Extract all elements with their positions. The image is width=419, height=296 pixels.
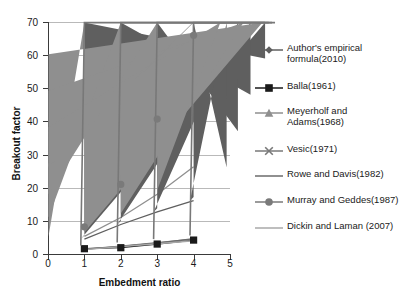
series-line [84,241,193,250]
legend-label-line: Vesic(1971) [287,143,337,154]
legend-label-line: Rowe and Davis(1982) [287,168,384,179]
legend-item-label: Balla(1961) [284,80,336,91]
y-axis-title: Breakout factor [11,84,22,204]
x-tick-label: 5 [227,258,233,269]
y-tick-label: 10 [14,215,38,226]
legend-marker-diamond-icon [254,43,284,57]
legend-label-line: Author's empirical [287,42,362,53]
legend-label-line: Dickin and Laman (2007) [287,220,393,231]
series-marker [154,116,161,123]
legend-item[interactable]: Vesic(1971) [254,143,337,158]
series-marker [117,244,124,251]
series-plot [48,22,231,255]
series-marker [81,245,88,252]
legend-item[interactable]: Balla(1961) [254,80,336,95]
x-tick-label: 0 [45,258,51,269]
legend-item-label: Murray and Geddes(1987) [284,194,398,205]
x-tick-label: 2 [118,258,124,269]
legend-item[interactable]: Meyerholf andAdams(1968) [254,105,347,127]
chart-figure: 010203040506070 012345 Embedment ratio B… [0,0,419,296]
legend-item-label: Meyerholf andAdams(1968) [284,105,347,127]
x-axis-title: Embedment ratio [48,277,231,288]
legend-label-line: Murray and Geddes(1987) [287,194,398,205]
legend-label-line: formula(2010) [287,53,362,64]
legend-item[interactable]: Dickin and Laman (2007) [254,220,393,235]
legend-item-label: Dickin and Laman (2007) [284,220,393,231]
legend-item-label: Rowe and Davis(1982) [284,168,384,179]
legend-label-line: Balla(1961) [287,80,336,91]
legend-item[interactable]: Murray and Geddes(1987) [254,194,398,209]
x-tick-label: 1 [82,258,88,269]
legend-marker-triangle-icon [254,106,284,120]
legend-item[interactable]: Rowe and Davis(1982) [254,168,384,183]
y-tick-label: 0 [14,249,38,260]
legend-marker-cross-icon [254,144,284,158]
y-tick-label: 60 [14,50,38,61]
legend-marker-circle-icon [254,195,284,209]
legend-marker-none-icon [254,221,284,235]
legend-item-label: Author's empiricalformula(2010) [284,42,362,64]
series-marker [190,236,197,243]
legend-label-line: Adams(1968) [287,116,347,127]
legend-item[interactable]: Author's empiricalformula(2010) [254,42,362,64]
legend-marker-none-icon [254,169,284,183]
series-marker [81,223,88,230]
legend-marker-square-icon [254,81,284,95]
legend-item-label: Vesic(1971) [284,143,337,154]
legend-label-line: Meyerholf and [287,105,347,116]
x-tick-label: 4 [191,258,197,269]
x-tick-label: 3 [154,258,160,269]
series-marker [190,32,197,39]
series-marker [117,181,124,188]
series-marker [154,240,161,247]
y-tick-label: 70 [14,17,38,28]
